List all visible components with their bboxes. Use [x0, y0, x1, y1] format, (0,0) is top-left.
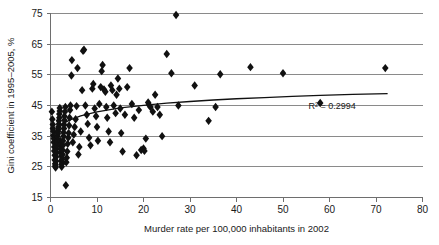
scatter-chart: 01020304050607080 15253545556575 R² = 0.…	[0, 0, 439, 245]
x-tick-label: 80	[417, 204, 429, 215]
x-tick-labels: 01020304050607080	[48, 204, 429, 215]
data-point	[122, 111, 129, 119]
data-point	[173, 11, 180, 19]
data-point	[191, 81, 198, 89]
x-tick-label: 0	[48, 204, 54, 215]
data-point	[156, 111, 163, 119]
data-point	[126, 64, 133, 72]
data-point	[212, 103, 219, 111]
data-point	[95, 137, 102, 145]
data-point	[133, 151, 140, 159]
data-point	[70, 138, 77, 146]
data-point	[107, 138, 114, 146]
data-point	[87, 141, 94, 149]
x-axis-title: Murder rate per 100,000 inhabitants in 2…	[144, 223, 329, 234]
data-point	[163, 50, 170, 58]
data-point	[71, 123, 78, 131]
x-tick-label: 30	[184, 204, 196, 215]
data-point	[84, 120, 91, 128]
data-point	[98, 67, 105, 75]
data-point	[99, 61, 106, 69]
data-point	[74, 64, 81, 72]
data-point	[73, 102, 80, 110]
x-tick-label: 70	[370, 204, 382, 215]
data-point	[49, 107, 56, 115]
y-tick-label: 75	[31, 8, 43, 19]
data-point	[68, 71, 75, 79]
y-tick-label: 35	[31, 131, 43, 142]
data-point	[152, 91, 159, 99]
data-point	[82, 101, 89, 109]
data-point	[63, 181, 70, 189]
tick-marks	[47, 14, 423, 202]
data-point	[382, 64, 389, 72]
y-tick-label: 45	[31, 100, 43, 111]
data-point	[205, 117, 212, 125]
y-tick-label: 55	[31, 69, 43, 80]
data-point	[280, 69, 287, 77]
data-point	[79, 86, 86, 94]
y-tick-label: 25	[31, 161, 43, 172]
data-point	[76, 143, 83, 151]
data-point	[124, 83, 131, 91]
data-point	[217, 70, 224, 78]
data-point	[131, 114, 138, 122]
y-axis-title: Gini coefficient in 1995–2005, %	[5, 37, 16, 174]
data-point	[75, 150, 82, 158]
data-point	[159, 132, 166, 140]
data-point	[104, 114, 111, 122]
data-point	[86, 134, 93, 142]
data-point	[96, 100, 103, 108]
data-point	[112, 109, 119, 117]
data-point	[115, 74, 122, 82]
x-tick-label: 40	[231, 204, 243, 215]
y-tick-label: 15	[31, 192, 43, 203]
data-point	[70, 130, 77, 138]
data-point	[77, 127, 84, 135]
x-tick-label: 50	[277, 204, 289, 215]
y-tick-labels: 15253545556575	[31, 8, 43, 203]
x-tick-label: 20	[138, 204, 150, 215]
x-tick-label: 60	[324, 204, 336, 215]
data-point	[94, 123, 101, 131]
r-squared-label: R² = 0.2994	[309, 101, 356, 111]
data-point	[105, 127, 112, 135]
data-point	[136, 106, 143, 114]
data-point	[69, 56, 76, 64]
y-tick-label: 65	[31, 39, 43, 50]
x-tick-label: 10	[91, 204, 103, 215]
data-point	[168, 69, 175, 77]
data-point	[247, 63, 254, 71]
data-point	[119, 147, 126, 155]
